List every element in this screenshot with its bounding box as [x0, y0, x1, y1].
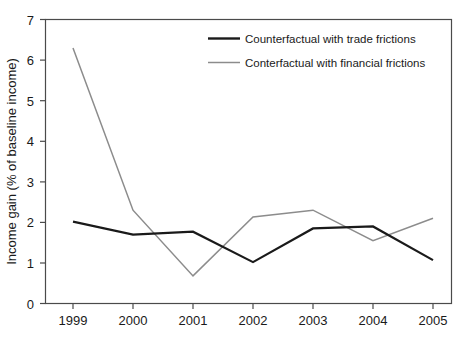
- series-line-financial-frictions: [73, 48, 433, 276]
- y-tick-label: 2: [27, 215, 34, 230]
- series-line-trade-frictions: [73, 222, 433, 263]
- line-chart: 7 6 5 4 3 2 1 0 Income gain (% of baseli…: [0, 0, 462, 342]
- chart-figure: 7 6 5 4 3 2 1 0 Income gain (% of baseli…: [0, 0, 462, 342]
- x-tick-label: 2005: [419, 313, 448, 328]
- y-axis-title: Income gain (% of baseline income): [4, 58, 19, 265]
- x-tick-label: 2001: [179, 313, 208, 328]
- y-tick-label: 4: [27, 134, 34, 149]
- legend-label-financial-frictions: Conterfactual with financial frictions: [245, 57, 425, 69]
- chart-legend: Counterfactual with trade frictions Cont…: [208, 33, 425, 69]
- y-axis-tick-labels: 7 6 5 4 3 2 1 0: [27, 13, 34, 312]
- y-tick-label: 6: [27, 53, 34, 68]
- x-tick-label: 1999: [59, 313, 88, 328]
- y-tick-label: 0: [27, 297, 34, 312]
- y-tick-label: 3: [27, 175, 34, 190]
- y-tick-label: 7: [27, 13, 34, 28]
- x-tick-label: 2002: [239, 313, 268, 328]
- y-tick-label: 1: [27, 256, 34, 271]
- x-tick-label: 2000: [119, 313, 148, 328]
- y-tick-label: 5: [27, 94, 34, 109]
- x-axis-tick-labels: 1999 2000 2001 2002 2003 2004 2005: [59, 313, 448, 328]
- y-axis-ticks: [40, 20, 46, 304]
- x-tick-label: 2003: [299, 313, 328, 328]
- legend-label-trade-frictions: Counterfactual with trade frictions: [245, 33, 416, 45]
- x-axis-ticks: [73, 304, 433, 310]
- x-tick-label: 2004: [359, 313, 388, 328]
